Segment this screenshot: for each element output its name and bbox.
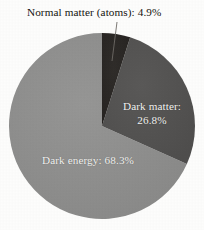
- dark-energy-slice-label: Dark energy: 68.3%: [32, 153, 144, 167]
- normal-matter-callout-label: Normal matter (atoms): 4.9%: [27, 6, 161, 19]
- dark-energy-label-line1: Dark energy: 68.3%: [32, 153, 144, 167]
- dark-matter-label-line1: Dark matter:: [110, 99, 194, 113]
- pie-chart-figure: Normal matter (atoms): 4.9% Dark matter:…: [0, 0, 204, 230]
- dark-matter-label-line2: 26.8%: [110, 113, 194, 127]
- dark-matter-slice-label: Dark matter: 26.8%: [110, 99, 194, 127]
